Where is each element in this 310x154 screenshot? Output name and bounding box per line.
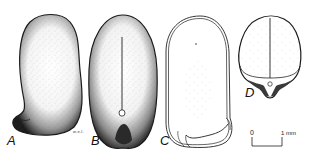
panel-c-outline <box>166 16 232 147</box>
scale-bar <box>252 137 282 146</box>
illustration-canvas <box>0 0 310 154</box>
scale-bar-end-label: 1 mm <box>281 130 296 136</box>
panel-b-seed <box>89 15 157 148</box>
panel-a-label: A <box>7 134 16 147</box>
scale-bar-start-label: 0 <box>250 129 254 136</box>
panel-b-label: B <box>91 134 100 147</box>
panel-d-label: D <box>245 86 254 99</box>
seed-illustration: A B C D w.e.l. 0 1 mm <box>0 0 310 154</box>
panel-c-label: C <box>160 134 169 147</box>
panel-a-seed <box>13 15 82 136</box>
illustrator-signature: w.e.l. <box>73 129 84 134</box>
panel-b-hilum <box>119 110 125 116</box>
